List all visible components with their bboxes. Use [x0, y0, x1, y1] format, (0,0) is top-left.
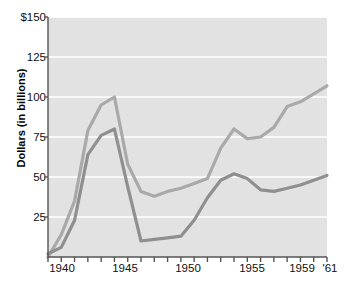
- plot-area: [0, 0, 346, 291]
- x-axis-ticks: [48, 257, 327, 262]
- spending-line-chart: Dollars (in billions) $150 125 100 75 50…: [0, 0, 346, 291]
